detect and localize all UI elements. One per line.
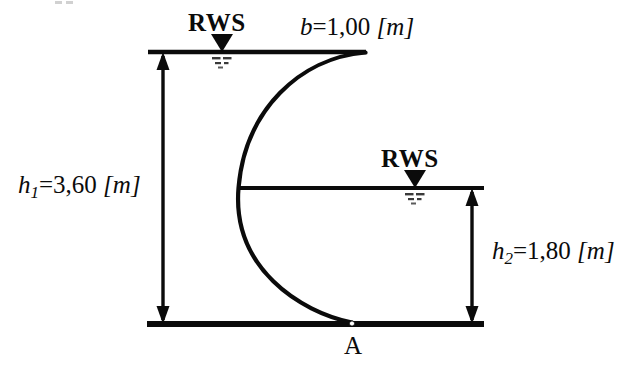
height-h1-subscript: 1 [31,183,40,202]
point-a-label: A [344,333,362,358]
height-h2-subscript: 2 [505,249,514,268]
width-b-label: b=1,00 [m] [300,14,414,39]
height-h1-unit: [m] [103,171,141,198]
width-b-equals: = [313,13,327,40]
height-h2-label: h2=1,80 [m] [492,238,615,267]
rws-lower-label: RWS [381,146,439,171]
width-b-unit: [m] [377,13,415,40]
h2-dimension [466,188,479,324]
width-b-symbol: b [300,13,313,40]
height-h2-equals: = [513,237,527,264]
scan-artifact [55,1,73,4]
height-h2-unit: [m] [577,237,615,264]
h2-arrowhead-top [466,188,479,206]
point-a-marker [349,321,354,326]
width-b-value: 1,00 [327,13,371,40]
h1-dimension [157,52,170,324]
height-h2-value: 1,80 [527,237,571,264]
height-h1-symbol: h [18,171,31,198]
height-h2-symbol: h [492,237,505,264]
rws-upper-label: RWS [188,10,246,35]
diagram-canvas: RWS RWS b=1,00 [m] h1=3,60 [m] h2=1,80 [… [0,0,639,369]
height-h1-equals: = [39,171,53,198]
height-h1-value: 3,60 [53,171,97,198]
height-h1-label: h1=3,60 [m] [18,172,141,201]
h1-arrowhead-top [157,52,170,70]
